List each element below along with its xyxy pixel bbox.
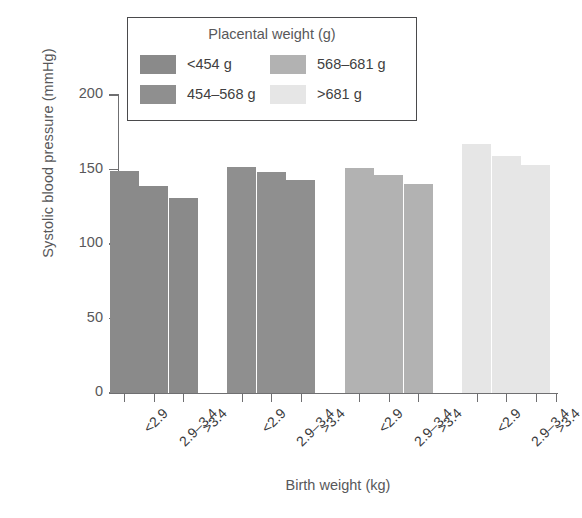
x-axis-tick: [536, 393, 537, 402]
legend: Placental weight (g) <454 g568–681 g454–…: [127, 17, 417, 121]
x-axis-tick: [301, 393, 302, 402]
legend-item-label: 568–681 g: [317, 56, 386, 72]
x-axis-tick: [359, 393, 360, 402]
legend-item: 454–568 g: [140, 79, 270, 109]
legend-item-label: 454–568 g: [187, 86, 256, 102]
y-axis-tick: 200: [109, 94, 118, 95]
legend-swatch: [270, 85, 306, 104]
bar: [521, 165, 550, 393]
x-axis-tick-label: <2.9: [375, 405, 406, 436]
legend-swatch: [270, 55, 306, 74]
x-axis-tick: [124, 393, 125, 402]
y-axis-tick-label: 50: [87, 309, 103, 325]
bar: [404, 184, 433, 393]
x-axis-tick: [418, 393, 419, 402]
bar: [374, 175, 403, 393]
legend-item: >681 g: [270, 79, 420, 109]
bar: [227, 167, 256, 393]
y-axis-tick-label: 100: [79, 234, 103, 250]
legend-title: Placental weight (g): [128, 26, 416, 42]
x-axis-tick-label: <2.9: [493, 405, 524, 436]
bar: [492, 156, 521, 393]
x-axis-tick: [556, 393, 557, 402]
y-axis-tick-label: 0: [95, 383, 103, 399]
y-axis-tick: 150: [109, 169, 118, 170]
x-axis-tick: [477, 393, 478, 402]
plot-area: 050100150200<2.92.9–3.4>3.4<2.92.9–3.4>3…: [118, 95, 558, 393]
legend-swatch: [140, 85, 176, 104]
legend-swatch: [140, 55, 176, 74]
legend-item-label: <454 g: [187, 56, 232, 72]
x-axis-tick: [183, 393, 184, 402]
x-axis-tick: [242, 393, 243, 402]
x-axis-tick: [506, 393, 507, 402]
bar: [139, 186, 168, 393]
x-axis-tick: [389, 393, 390, 402]
bar: [110, 171, 139, 393]
y-axis-title: Systolic blood pressure (mmHg): [40, 13, 56, 293]
bar: [345, 168, 374, 393]
bar: [257, 172, 286, 393]
bar: [169, 198, 198, 393]
x-axis-tick: [271, 393, 272, 402]
x-axis-tick-label: <2.9: [140, 405, 171, 436]
x-axis-tick: [154, 393, 155, 402]
legend-item-label: >681 g: [317, 86, 362, 102]
legend-item: <454 g: [140, 49, 270, 79]
bar: [462, 144, 491, 393]
bar: [286, 180, 315, 393]
legend-item: 568–681 g: [270, 49, 420, 79]
y-axis-tick-label: 150: [79, 160, 103, 176]
legend-items: <454 g568–681 g454–568 g>681 g: [128, 49, 416, 109]
x-axis-title: Birth weight (kg): [118, 477, 558, 493]
y-axis-tick-label: 200: [79, 85, 103, 101]
x-axis-tick-label: <2.9: [258, 405, 289, 436]
